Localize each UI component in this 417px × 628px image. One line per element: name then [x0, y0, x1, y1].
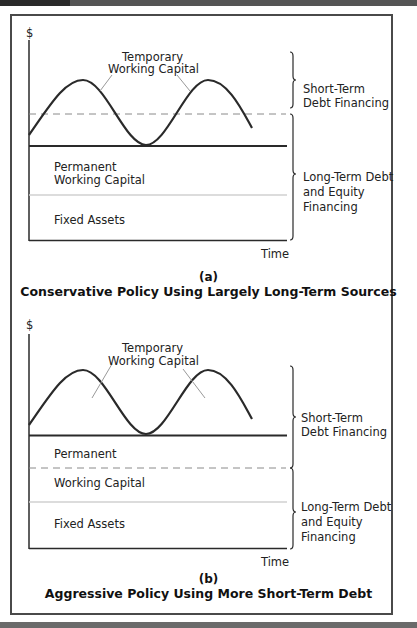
panel-b-x-axis-label: Time	[261, 555, 289, 569]
panel-a-long-term-brace	[290, 114, 296, 240]
panel-b-fixed-assets-label: Fixed Assets	[54, 517, 125, 531]
panel-b-curve-label-line2: Working Capital	[108, 354, 199, 368]
panel-b-long-term-brace	[290, 468, 296, 549]
panel-b-permanent-label: Permanent	[54, 447, 117, 461]
panel-a-permanent-label-line1: Permanent	[54, 160, 117, 174]
panel-b-label-pointer-right	[183, 369, 205, 398]
panel-b-short-term-label-line1: Short-Term	[301, 411, 363, 425]
bottom-border-bar	[0, 622, 417, 628]
panel-b-long-term-label-line1: Long-Term Debt	[301, 500, 391, 514]
panel-b-short-term-label-line2: Debt Financing	[301, 425, 387, 439]
panel-a-permanent-label-line2: Working Capital	[54, 173, 145, 187]
panel-a-long-term-label-line3: Financing	[303, 200, 358, 214]
panel-b-curve-label-line1: Temporary	[122, 341, 183, 355]
panel-b-letter: (b)	[10, 572, 407, 586]
panel-a-label-pointer-left	[100, 75, 112, 91]
panel-a-short-term-brace	[290, 52, 296, 108]
panel-a-long-term-label-line2: and Equity	[303, 185, 365, 199]
panel-b-long-term-label-line3: Financing	[301, 530, 356, 544]
panel-b-long-term-label-line2: and Equity	[301, 515, 363, 529]
panel-a-temporary-wc-curve	[29, 80, 252, 145]
panel-a-short-term-label-line1: Short-Term	[303, 82, 365, 96]
panel-a-y-axis-label: $	[26, 26, 33, 40]
panel-b-title: Aggressive Policy Using More Short-Term …	[10, 586, 407, 601]
panel-b-working-capital-label: Working Capital	[54, 476, 145, 490]
panel-b-temporary-wc-curve	[29, 370, 252, 434]
panel-a-letter: (a)	[10, 270, 407, 284]
panel-a-short-term-label-line2: Debt Financing	[303, 96, 389, 110]
panel-a-curve-label-line2: Working Capital	[108, 62, 199, 76]
panel-a-fixed-assets-label: Fixed Assets	[54, 213, 125, 227]
panel-a-label-pointer-right	[177, 75, 190, 91]
panel-b-y-axis-label: $	[26, 318, 33, 332]
panel-b-short-term-brace	[290, 366, 296, 468]
panel-a-long-term-label-line1: Long-Term Debt	[303, 170, 393, 184]
panel-a-title: Conservative Policy Using Largely Long-T…	[10, 284, 407, 299]
panel-a-x-axis-label: Time	[261, 247, 289, 261]
